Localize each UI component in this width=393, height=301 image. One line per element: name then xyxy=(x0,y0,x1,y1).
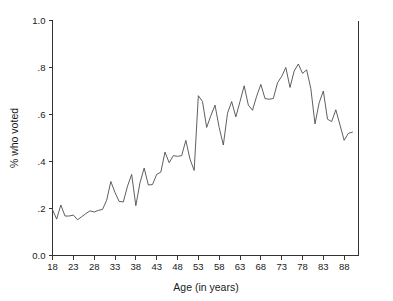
x-axis-title: Age (in years) xyxy=(173,281,238,293)
x-tick-label: 28 xyxy=(89,261,100,272)
y-axis-title: % who voted xyxy=(8,108,20,168)
y-tick-label: .4 xyxy=(38,156,46,167)
x-axis-ticks: 182328333843485358636873788388 xyxy=(47,256,349,272)
data-series-line xyxy=(53,64,353,220)
chart-figure: 0.0.2.4.6.81.0 1823283338434853586368737… xyxy=(0,0,393,301)
x-tick-label: 53 xyxy=(193,261,204,272)
x-tick-label: 48 xyxy=(172,261,183,272)
x-tick-label: 78 xyxy=(297,261,308,272)
x-tick-label: 38 xyxy=(131,261,142,272)
y-tick-label: 1.0 xyxy=(32,15,45,26)
x-tick-label: 63 xyxy=(235,261,246,272)
x-tick-label: 43 xyxy=(151,261,162,272)
x-tick-label: 88 xyxy=(339,261,350,272)
x-tick-label: 58 xyxy=(214,261,225,272)
y-tick-label: .2 xyxy=(38,203,46,214)
x-tick-label: 73 xyxy=(276,261,287,272)
x-tick-label: 23 xyxy=(68,261,79,272)
y-tick-label: 0.0 xyxy=(32,250,45,261)
y-tick-label: .6 xyxy=(38,109,46,120)
x-tick-label: 33 xyxy=(110,261,121,272)
y-axis-ticks: 0.0.2.4.6.81.0 xyxy=(32,15,52,261)
axis-frame xyxy=(53,21,359,256)
x-tick-label: 68 xyxy=(256,261,267,272)
x-tick-label: 18 xyxy=(47,261,58,272)
line-chart: 0.0.2.4.6.81.0 1823283338434853586368737… xyxy=(0,0,393,301)
x-tick-label: 83 xyxy=(318,261,329,272)
y-tick-label: .8 xyxy=(38,62,46,73)
